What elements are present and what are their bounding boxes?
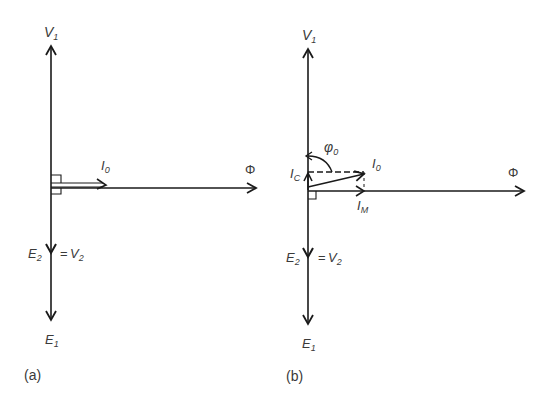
v2-label: V2: [70, 246, 84, 263]
ic-label: IC: [290, 166, 301, 183]
e2-label: E2: [286, 250, 300, 267]
v1-label: V1: [302, 27, 316, 45]
equals-sign: =: [318, 250, 326, 265]
flux-label: Φ: [508, 165, 518, 180]
panel-a: V1 I0 Φ E2 = V2 E1 (a): [24, 24, 256, 383]
panel-b-caption: (b): [286, 368, 303, 384]
v1-label: V1: [44, 24, 58, 42]
equals-sign: =: [60, 246, 68, 261]
phi0-angle-arc: [308, 156, 332, 172]
flux-label: Φ: [245, 162, 255, 177]
phi0-label: φ0: [324, 139, 338, 157]
e1-label: E1: [45, 332, 59, 349]
panel-b: V1 φ0 I0 IC IM Φ E2 = V2 E1 (b): [286, 27, 524, 384]
i0-label: I0: [372, 156, 381, 173]
e1-label: E1: [302, 336, 316, 353]
right-angle-marker: [51, 175, 61, 183]
i0-phasor: [308, 174, 364, 187]
phasor-diagram: V1 I0 Φ E2 = V2 E1 (a) V1 φ0: [0, 0, 544, 409]
right-angle-marker: [308, 191, 316, 199]
panel-a-caption: (a): [24, 367, 41, 383]
v2-label: V2: [328, 250, 342, 267]
im-label: IM: [357, 198, 369, 215]
i0-phasor: [51, 179, 106, 189]
right-angle-marker-lower: [51, 188, 61, 194]
e2-label: E2: [28, 246, 42, 263]
i0-label: I0: [101, 158, 110, 175]
